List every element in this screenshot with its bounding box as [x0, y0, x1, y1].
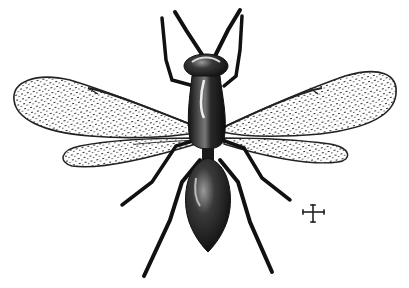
wasp-illustration — [0, 0, 409, 288]
wasp-drawing — [0, 0, 409, 288]
abdomen — [186, 158, 231, 252]
head — [184, 54, 228, 78]
left-hindwing — [63, 138, 196, 167]
left-forewing — [14, 77, 200, 137]
antennae — [175, 10, 240, 56]
thorax — [188, 76, 225, 149]
right-hindwing — [224, 138, 348, 163]
cross-icon — [303, 205, 324, 222]
right-forewing — [222, 72, 396, 136]
